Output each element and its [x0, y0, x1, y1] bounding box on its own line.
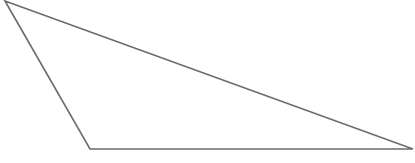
triangle-shape [5, 1, 413, 149]
triangle-diagram [0, 0, 415, 163]
